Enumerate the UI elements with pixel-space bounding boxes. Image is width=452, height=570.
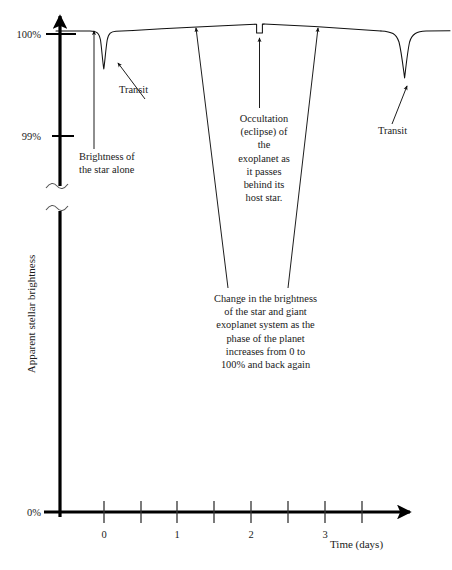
light-curve-svg: 100% 99% 0% 0 1 2 3 xyxy=(0,0,452,570)
curve-transit-1 xyxy=(56,31,133,69)
axis-break-squiggle-upper xyxy=(46,183,68,188)
leader-transit-right xyxy=(392,86,407,124)
curve-phase-rise xyxy=(133,24,255,30)
curve-occultation xyxy=(255,24,264,33)
x-axis-title: Time (days) xyxy=(330,538,383,550)
curve-transit-2 xyxy=(381,31,450,78)
light-curve-series xyxy=(56,24,450,78)
annotation-transit-right: Transit xyxy=(378,124,407,137)
annotation-phase-change: Change in the brightness of the star and… xyxy=(192,292,339,371)
x-axis: 0 1 2 3 xyxy=(44,501,410,540)
axis-break-squiggle-lower xyxy=(46,205,68,210)
x-tick-label-2: 2 xyxy=(248,529,253,540)
annotation-occultation: Occultation (eclipse) of the exoplanet a… xyxy=(221,112,307,204)
y-tick-label-0: 0% xyxy=(27,507,41,518)
annotation-transit-left: Transit xyxy=(119,83,148,96)
annotation-brightness-of-star: Brightness of the star alone xyxy=(79,150,135,176)
y-tick-label-99: 99% xyxy=(22,131,42,142)
x-tick-label-3: 3 xyxy=(322,529,327,540)
x-tick-label-1: 1 xyxy=(174,529,179,540)
x-tick-label-0: 0 xyxy=(101,529,106,540)
y-axis-title: Apparent stellar brightness xyxy=(25,239,37,389)
y-tick-label-100: 100% xyxy=(17,29,42,40)
curve-phase-fall xyxy=(264,24,381,31)
light-curve-figure: 100% 99% 0% 0 1 2 3 xyxy=(0,0,452,570)
